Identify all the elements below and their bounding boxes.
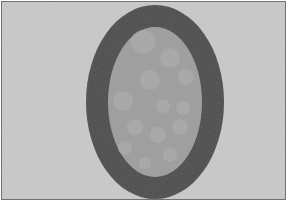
spot [139,157,151,169]
spot [172,119,188,135]
ring-image [0,0,287,206]
spot [127,119,143,135]
spot [178,69,194,85]
spot [176,101,190,115]
spot [156,99,170,113]
spot [150,127,166,143]
photograph: Elliptical ring with spotted interior [0,0,287,206]
spot [140,70,160,90]
spot [160,48,180,68]
spot [113,91,133,111]
spot [131,30,155,54]
spot [118,141,132,155]
spot [163,148,177,162]
